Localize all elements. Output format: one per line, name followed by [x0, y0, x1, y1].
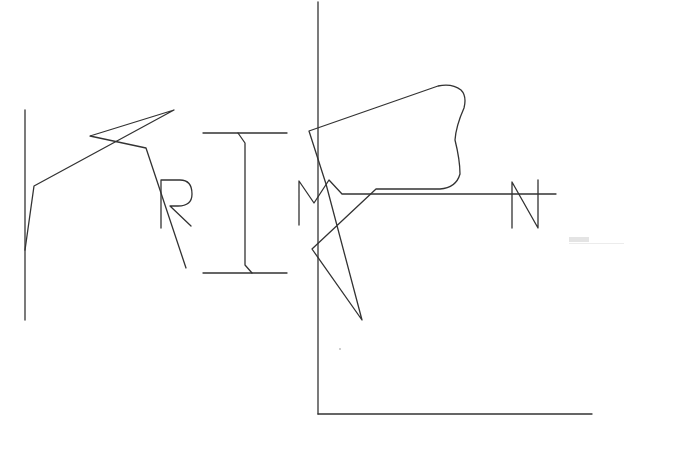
letter-i-stem — [238, 133, 252, 273]
stroke-layer — [25, 2, 592, 414]
faint-mark-block — [569, 237, 589, 242]
blob-outline — [309, 85, 465, 320]
letter-m — [299, 180, 556, 225]
left-zigzag-stroke — [25, 110, 186, 268]
drawing-canvas[interactable] — [0, 0, 700, 458]
stray-dot — [339, 348, 341, 350]
letter-n — [512, 180, 538, 228]
faint-mark — [569, 237, 625, 245]
letter-r — [161, 180, 192, 228]
faint-mark-underline — [569, 243, 624, 244]
